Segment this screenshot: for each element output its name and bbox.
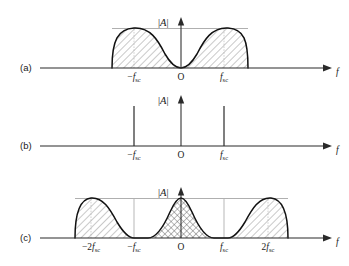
panel-c-label: (c) bbox=[20, 232, 31, 243]
spectrum-figure: (a) |A| f −fsc O fsc bbox=[0, 0, 349, 266]
figure-canvas: (a) |A| f −fsc O fsc bbox=[0, 0, 349, 266]
panel-a-tick-pos-fsc: fsc bbox=[220, 72, 228, 83]
panel-a-tick-neg-fsc: −fsc bbox=[127, 72, 141, 83]
panel-a-frequency-label: f bbox=[336, 67, 340, 77]
panel-c-magnitude-arrowhead bbox=[178, 187, 184, 196]
panel-c-frequency-arrowhead bbox=[323, 235, 332, 242]
panel-c-tick-pos-2fsc: 2fsc bbox=[262, 242, 275, 253]
panel-b-label: (b) bbox=[20, 140, 32, 151]
panel-a: (a) |A| f −fsc O fsc bbox=[20, 17, 340, 83]
panel-c: (c) |A| bbox=[20, 187, 340, 253]
panel-c-tick-neg-fsc: −fsc bbox=[127, 242, 141, 253]
panel-b-tick-origin: O bbox=[178, 150, 185, 160]
panel-c-tick-origin: O bbox=[178, 242, 185, 252]
panel-a-magnitude-label: |A| bbox=[158, 17, 169, 28]
panel-c-hatch-left bbox=[72, 194, 142, 242]
panel-a-label: (a) bbox=[20, 62, 32, 73]
panel-b: (b) |A| f −fsc O fsc bbox=[20, 95, 340, 161]
panel-b-frequency-label: f bbox=[336, 145, 340, 155]
panel-b-tick-pos-fsc: fsc bbox=[220, 150, 228, 161]
panel-b-frequency-arrowhead bbox=[323, 143, 332, 150]
panel-c-tick-pos-fsc: fsc bbox=[220, 242, 228, 253]
panel-b-magnitude-arrowhead bbox=[178, 95, 184, 104]
panel-a-frequency-arrowhead bbox=[323, 65, 332, 72]
panel-c-tick-neg-2fsc: −2fsc bbox=[82, 242, 100, 253]
panel-b-tick-neg-fsc: −fsc bbox=[127, 150, 141, 161]
panel-c-frequency-label: f bbox=[336, 237, 340, 247]
panel-c-magnitude-label: |A| bbox=[158, 187, 169, 198]
panel-a-tick-origin: O bbox=[178, 72, 185, 82]
panel-a-magnitude-arrowhead bbox=[178, 17, 184, 26]
panel-b-magnitude-label: |A| bbox=[158, 95, 169, 106]
